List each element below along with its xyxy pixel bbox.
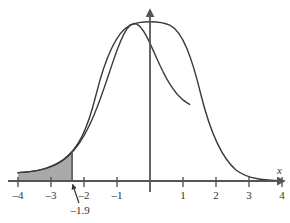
x-tick-label-neg2: –2 bbox=[78, 189, 90, 201]
x-tick-label-neg4: –4 bbox=[12, 189, 25, 201]
callout-label-neg1point9: –1.9 bbox=[69, 204, 90, 216]
x-tick-label-neg3: –3 bbox=[45, 189, 58, 201]
x-tick-label-4: 4 bbox=[279, 189, 285, 201]
normal-distribution-figure: –4 –3 –2 –1 1 2 3 4 x –1.9 bbox=[0, 0, 290, 223]
x-tick-label-1: 1 bbox=[180, 189, 186, 201]
x-tick-label-3: 3 bbox=[246, 189, 252, 201]
chart-canvas: –4 –3 –2 –1 1 2 3 4 x –1.9 bbox=[0, 0, 290, 223]
x-tick-label-2: 2 bbox=[213, 189, 219, 201]
x-axis-label: x bbox=[276, 164, 282, 176]
x-tick-label-neg1: –1 bbox=[111, 189, 123, 201]
